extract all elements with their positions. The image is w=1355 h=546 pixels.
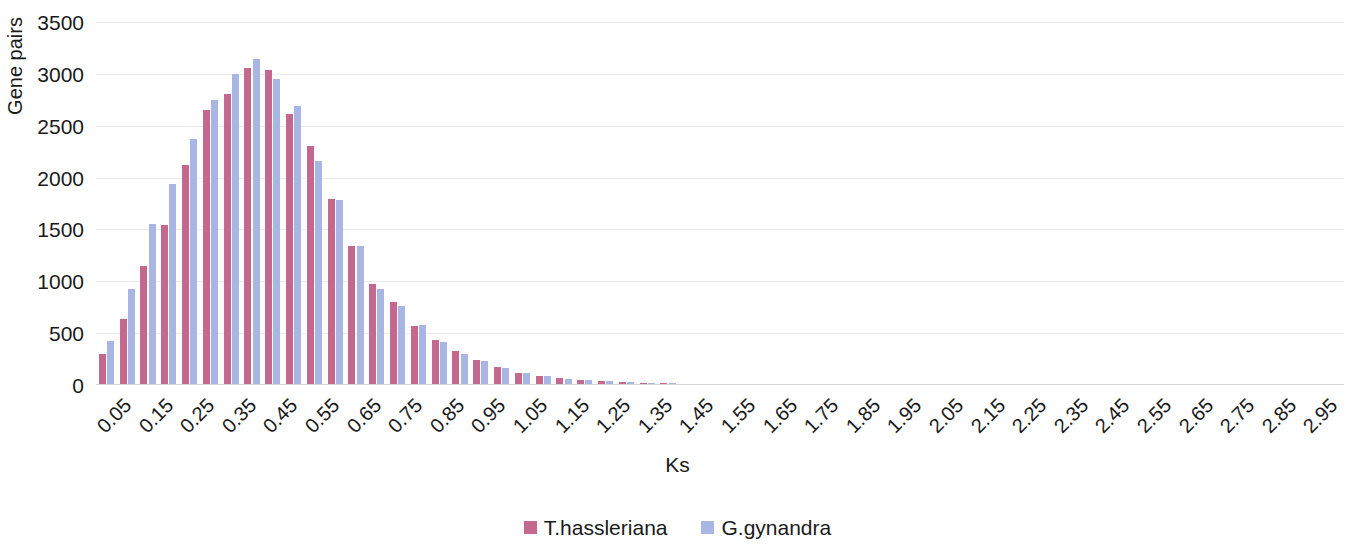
bar-group [328, 22, 343, 385]
bar-series-b [377, 289, 384, 385]
bar-series-b [357, 246, 364, 385]
x-axis-tick-label: 0.45 [250, 394, 302, 446]
bar-series-b [232, 74, 239, 385]
bar-group [910, 22, 925, 385]
bar-group [702, 22, 717, 385]
bar-group [868, 22, 883, 385]
bar-series-b [211, 100, 218, 385]
bar-series-b [128, 289, 135, 385]
bar-series-b [419, 325, 426, 385]
bar-group [265, 22, 280, 385]
bar-group [536, 22, 551, 385]
x-axis-tick-label: 1.85 [832, 394, 884, 446]
bar-group [1160, 22, 1175, 385]
x-axis-tick-label: 0.15 [125, 394, 177, 446]
x-axis-tick-label: 2.45 [1082, 394, 1134, 446]
bar-series-b [273, 79, 280, 385]
x-axis-tick-label: 1.65 [749, 394, 801, 446]
x-axis-tick-label: 0.85 [416, 394, 468, 446]
legend-swatch-icon [524, 521, 537, 534]
bar-series-a [432, 340, 439, 385]
bar-group [1014, 22, 1029, 385]
bar-group [161, 22, 176, 385]
bar-series-a [140, 266, 147, 385]
bar-group [432, 22, 447, 385]
x-axis-baseline [96, 384, 1344, 385]
x-axis-tick-label: 0.35 [208, 394, 260, 446]
bar-group [307, 22, 322, 385]
bar-group [99, 22, 114, 385]
legend-label: G.gynandra [721, 516, 831, 539]
bar-group [515, 22, 530, 385]
bar-group [369, 22, 384, 385]
bar-series-a [286, 114, 293, 385]
bar-series-layer [96, 22, 1344, 385]
x-axis-tick-label: 2.85 [1248, 394, 1300, 446]
legend-item[interactable]: T.hassleriana [524, 516, 668, 539]
bar-series-a [265, 70, 272, 385]
bar-series-a [348, 246, 355, 385]
bar-series-b [294, 106, 301, 385]
y-axis-tick-label: 3000 [37, 64, 84, 85]
bar-series-a [494, 367, 501, 385]
bar-series-a [224, 94, 231, 385]
bar-series-b [253, 59, 260, 385]
bar-series-b [440, 342, 447, 385]
bar-group [1076, 22, 1091, 385]
bar-group [619, 22, 634, 385]
bar-group [744, 22, 759, 385]
bar-group [286, 22, 301, 385]
x-axis-tick-label: 1.15 [541, 394, 593, 446]
x-axis-tick-label: 2.65 [1165, 394, 1217, 446]
bar-series-a [182, 165, 189, 385]
bar-group [203, 22, 218, 385]
bar-group [1222, 22, 1237, 385]
x-axis-tick-label: 0.55 [291, 394, 343, 446]
bar-group [1139, 22, 1154, 385]
y-axis-tick-label: 2000 [37, 168, 84, 189]
bar-group [120, 22, 135, 385]
legend-swatch-icon [701, 521, 714, 534]
y-axis-tick-label: 3500 [37, 12, 84, 33]
bar-group [806, 22, 821, 385]
bar-group [348, 22, 363, 385]
legend-item[interactable]: G.gynandra [701, 516, 831, 539]
bar-group [764, 22, 779, 385]
bar-group [972, 22, 987, 385]
bar-group [556, 22, 571, 385]
x-axis-tick-label: 1.45 [666, 394, 718, 446]
bar-group [473, 22, 488, 385]
x-axis-tick-label: 0.25 [166, 394, 218, 446]
bar-group [889, 22, 904, 385]
bar-group [1326, 22, 1341, 385]
bar-series-b [169, 184, 176, 385]
bar-series-a [161, 225, 168, 385]
bar-series-b [502, 368, 509, 385]
bar-group [848, 22, 863, 385]
bar-group [640, 22, 655, 385]
x-axis-tick-label: 1.75 [790, 394, 842, 446]
x-axis-tick-label: 0.95 [458, 394, 510, 446]
bar-group [244, 22, 259, 385]
bar-group [681, 22, 696, 385]
bar-group [224, 22, 239, 385]
ks-distribution-chart: Gene pairs 0500100015002000250030003500 … [0, 0, 1355, 546]
x-axis-tick-label: 1.95 [874, 394, 926, 446]
bar-series-a [452, 351, 459, 385]
bar-group [1305, 22, 1320, 385]
bar-group [931, 22, 946, 385]
y-axis-tick-label: 1500 [37, 219, 84, 240]
bar-group [660, 22, 675, 385]
x-axis-tick-label: 2.95 [1290, 394, 1342, 446]
bar-group [577, 22, 592, 385]
y-axis-tick-label: 0 [72, 375, 84, 396]
chart-legend: T.hasslerianaG.gynandra [0, 516, 1355, 539]
bar-group [1264, 22, 1279, 385]
bar-group [952, 22, 967, 385]
bar-group [1097, 22, 1112, 385]
x-axis-tick-label: 1.25 [582, 394, 634, 446]
bar-series-b [398, 306, 405, 385]
x-axis-tick-label: 1.05 [499, 394, 551, 446]
bar-group [390, 22, 405, 385]
bar-group [140, 22, 155, 385]
